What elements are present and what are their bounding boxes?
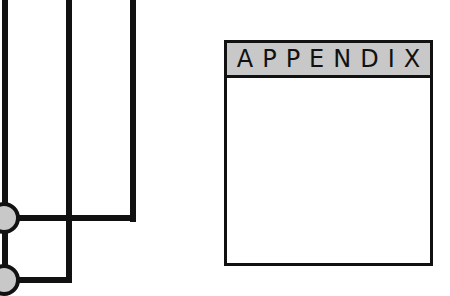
connector-right-vertical (130, 0, 136, 222)
connector-middle-vertical (66, 0, 72, 283)
junction-node-upper (0, 202, 20, 234)
appendix-box: APPENDIX (224, 40, 433, 266)
junction-node-lower (0, 264, 20, 296)
connector-upper-horizontal (4, 215, 136, 221)
appendix-title: APPENDIX (228, 45, 429, 73)
appendix-header: APPENDIX (227, 43, 430, 78)
connector-left-vertical (2, 0, 8, 289)
